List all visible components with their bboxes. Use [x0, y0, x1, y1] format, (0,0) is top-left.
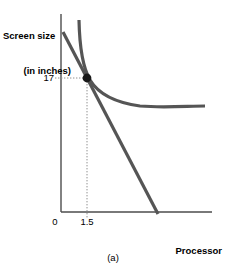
y-axis-title-main: Screen size [3, 30, 71, 42]
chart-figure: Screen size (in inches) Processor speed … [0, 0, 226, 271]
x-axis-tick-label-0: 0 [49, 216, 61, 227]
budget-line [63, 32, 158, 214]
y-axis-title-unit: (in inches) [3, 65, 71, 77]
indifference-curve [79, 20, 205, 107]
tangency-point-marker [83, 74, 92, 83]
x-axis-tick-label-1-5: 1.5 [75, 216, 99, 227]
figure-caption: (a) [0, 252, 226, 263]
y-axis-title: Screen size (in inches) [3, 7, 71, 99]
y-axis-tick-label-17: 17 [38, 72, 54, 83]
x-axis-title: Processor speed (in gigahertz) [162, 222, 222, 271]
